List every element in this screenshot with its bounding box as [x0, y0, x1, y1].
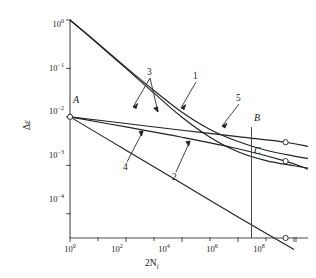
leader-1 [181, 82, 196, 108]
x-axis-title-sub: f [157, 264, 159, 270]
x-tick-label-1e2: 102 [103, 243, 131, 253]
x-axis-title: 2Nf [145, 259, 159, 270]
data-curves [70, 20, 308, 249]
point-label-B: B [254, 113, 260, 123]
curve-label-5: 5 [236, 94, 241, 104]
leader-2-arrow [186, 141, 190, 146]
y-tick-label-1e-1: 10−1 [30, 62, 64, 72]
leader-3-arrow [133, 103, 138, 108]
point-label-A: A [73, 95, 79, 105]
curve-label-1: 1 [193, 72, 198, 82]
plot-canvas [0, 0, 316, 278]
point-markers [67, 114, 288, 240]
y-tick-label-1e-4: 10−4 [30, 193, 64, 203]
curve-label-2: 2 [172, 173, 177, 183]
leader-1-arrow [181, 105, 186, 110]
curve-label-3: 3 [147, 68, 152, 78]
y-tick-label-1e-3: 10−3 [30, 149, 64, 159]
marker-A [67, 114, 72, 119]
axis-lines [70, 20, 308, 238]
marker-axis-3 [283, 235, 288, 240]
callout-leaders [127, 78, 239, 172]
x-axis-title-main: 2N [145, 258, 157, 268]
y-tick-exp-1e0: 0 [61, 18, 64, 24]
x-tick-label-1e8: 108 [245, 243, 273, 253]
leader-3b-arrow [154, 107, 158, 112]
y-axis-title: Δε [22, 120, 32, 130]
y-tick-label-1e-2: 10−2 [30, 105, 64, 115]
y-tick-label-1e0: 100 [30, 18, 64, 28]
leader-4 [127, 131, 143, 162]
x-tick-label-1e6: 106 [198, 243, 226, 253]
leader-4-arrow [139, 131, 143, 136]
figure: 100 10−1 10−2 10−3 10−4 100 102 104 106 … [0, 0, 316, 278]
marker-B [283, 140, 288, 145]
point-label-C: C [254, 146, 261, 156]
leader-2 [176, 141, 190, 172]
curve-label-4: 4 [123, 163, 128, 173]
x-tick-label-1e4: 104 [150, 243, 178, 253]
leader-5 [222, 104, 239, 126]
leader-5-arrow [222, 123, 227, 128]
marker-C [283, 159, 288, 164]
x-tick-label-1e0: 100 [56, 243, 84, 253]
